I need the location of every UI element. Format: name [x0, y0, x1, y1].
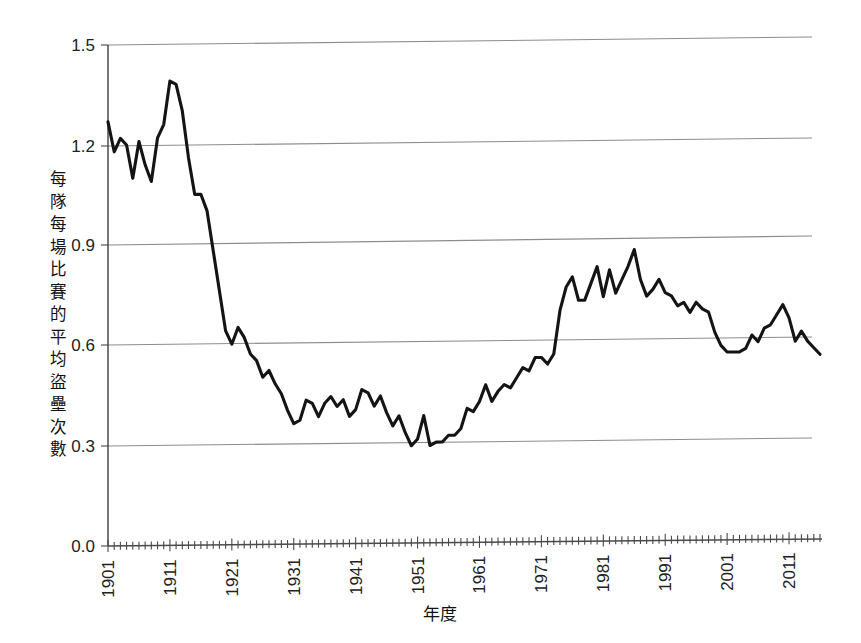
x-axis-title: 年度 [423, 604, 457, 624]
x-tick-label: 1901 [99, 560, 118, 598]
x-tick-label: 1961 [470, 556, 489, 594]
x-tick-label: 1911 [161, 559, 180, 596]
y-axis-title-char: 隊 [50, 193, 67, 212]
y-axis-title-char: 賽 [50, 282, 67, 302]
stolen-bases-line-chart: 1.5 1.2 0.9 0.6 0.3 0.0 每隊每場比賽的平均盜壘次數 19… [0, 0, 861, 643]
y-tick-label: 0.6 [71, 336, 95, 355]
y-axis-title-char: 場 [50, 238, 67, 257]
x-tick-label: 1951 [409, 557, 428, 595]
figure-container: 1.5 1.2 0.9 0.6 0.3 0.0 每隊每場比賽的平均盜壘次數 19… [0, 0, 861, 643]
y-tick-label: 1.2 [71, 137, 95, 156]
y-axis-title-char: 盜 [50, 373, 67, 392]
y-tick-label: 0.3 [71, 437, 95, 456]
y-axis-title-char: 次 [50, 418, 67, 437]
y-tick-label: 1.5 [71, 36, 95, 55]
chart-background [0, 0, 861, 643]
y-tick-label: 0.0 [71, 537, 95, 556]
x-tick-label: 1981 [594, 554, 613, 592]
x-tick-label: 1971 [532, 555, 551, 593]
x-tick-label: 1931 [285, 558, 304, 596]
y-axis-title-char: 均 [50, 350, 67, 369]
y-axis-title-char: 比 [50, 260, 67, 279]
y-axis-title-char: 數 [50, 440, 67, 459]
y-axis-title-char: 平 [50, 328, 67, 347]
y-tick-label: 0.9 [71, 236, 95, 255]
x-tick-label: 1921 [223, 559, 242, 597]
x-tick-label: 2011 [780, 552, 799, 589]
x-tick-label: 1991 [656, 554, 675, 592]
y-axis-title-char: 每 [50, 215, 67, 234]
x-tick-label: 2001 [718, 553, 737, 591]
y-axis-title-char: 每 [50, 170, 67, 189]
y-axis-title-char: 壘 [50, 395, 67, 414]
x-tick-label: 1941 [347, 557, 366, 595]
y-axis-title-char: 的 [50, 305, 67, 324]
